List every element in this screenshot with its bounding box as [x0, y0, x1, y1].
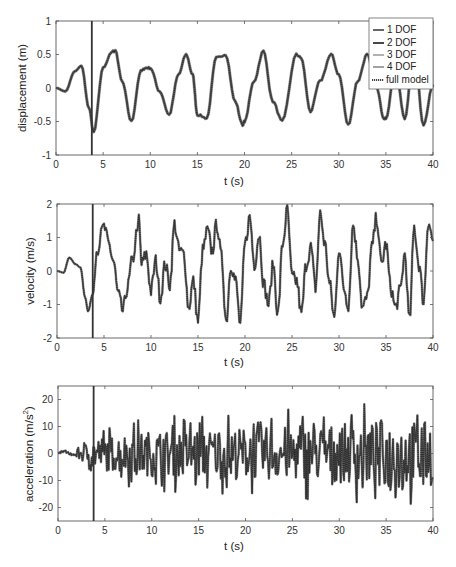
y-tick-label: 0: [46, 266, 52, 277]
y-tick-label: 1: [46, 232, 52, 243]
x-tick-label: 40: [427, 159, 439, 170]
x-tick-label: 10: [145, 342, 157, 353]
legend-label: 3 DOF: [387, 49, 416, 60]
x-tick-label: 10: [145, 159, 157, 170]
ylabel-displacement: displacement (m): [16, 44, 28, 132]
y-tick-label: -10: [39, 475, 54, 486]
x-tick-label: 20: [240, 525, 252, 536]
xlabel-displacement: t (s): [224, 175, 244, 187]
x-tick-label: 25: [286, 342, 298, 353]
acceleration-panel: 051015202530354020100-10-20: [39, 386, 439, 536]
y-tick-label: 0.5: [37, 49, 51, 60]
x-tick-label: 30: [334, 525, 346, 536]
y-tick-label: -1: [43, 299, 52, 310]
x-tick-label: 40: [427, 342, 439, 353]
x-tick-label: 25: [286, 159, 298, 170]
legend: 1 DOF 2 DOF 3 DOF 4 DOF full model: [369, 18, 433, 89]
figure-canvas: 051015202530354010.50-0.5-1 051015202530…: [0, 0, 456, 567]
x-tick-label: 5: [101, 342, 107, 353]
x-tick-label: 20: [239, 342, 251, 353]
y-tick-label: -2: [43, 333, 52, 344]
legend-label: 4 DOF: [387, 61, 416, 72]
x-tick-label: 0: [55, 525, 61, 536]
x-tick-label: 0: [54, 342, 60, 353]
x-tick-label: 0: [53, 159, 59, 170]
x-tick-label: 10: [146, 525, 158, 536]
y-tick-label: 0: [45, 83, 51, 94]
y-tick-label: 0: [47, 448, 53, 459]
x-tick-label: 30: [333, 342, 345, 353]
data-traces: [57, 205, 433, 323]
x-tick-label: 25: [287, 525, 299, 536]
xlabel-acceleration: t (s): [224, 540, 244, 552]
y-tick-label: -0.5: [34, 116, 52, 127]
y-tick-label: -20: [39, 502, 54, 513]
x-tick-label: 20: [239, 159, 251, 170]
x-tick-label: 35: [380, 159, 392, 170]
y-tick-label: 1: [45, 16, 51, 27]
legend-label: full model: [386, 74, 429, 85]
y-tick-label: -1: [42, 150, 51, 161]
legend-label: 1 DOF: [387, 24, 416, 35]
x-tick-label: 40: [427, 525, 439, 536]
velocity-panel: 0510152025303540210-1-2: [43, 199, 439, 354]
data-traces: [58, 404, 433, 504]
ylabel-velocity: velocity (m/s): [24, 237, 36, 305]
x-tick-label: 35: [381, 525, 393, 536]
ylabel-acceleration: acceleration (m/s2): [21, 406, 35, 502]
legend-label: 2 DOF: [387, 37, 416, 48]
x-tick-label: 15: [193, 525, 205, 536]
y-tick-label: 2: [46, 199, 52, 210]
x-tick-label: 15: [192, 159, 204, 170]
xlabel-velocity: t (s): [224, 356, 244, 368]
y-tick-label: 20: [42, 394, 54, 405]
x-tick-label: 5: [102, 525, 108, 536]
x-tick-label: 15: [192, 342, 204, 353]
x-tick-label: 5: [100, 159, 106, 170]
x-tick-label: 35: [380, 342, 392, 353]
x-tick-label: 30: [333, 159, 345, 170]
y-tick-label: 10: [42, 421, 54, 432]
